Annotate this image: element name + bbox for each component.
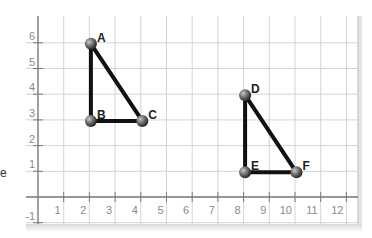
point-d bbox=[239, 89, 251, 101]
coordinate-plane: 123456789101112-1123456 ABCDEF e bbox=[0, 0, 372, 238]
point-label-b: B bbox=[97, 108, 106, 122]
x-tick-label: 1 bbox=[55, 204, 61, 216]
bottom-shadow bbox=[26, 224, 362, 232]
point-f bbox=[291, 166, 303, 178]
labeled-points: ABCDEF bbox=[85, 31, 310, 179]
x-tick-label: 8 bbox=[234, 204, 240, 216]
point-label-c: C bbox=[148, 108, 157, 122]
y-tick-label: 5 bbox=[29, 56, 35, 68]
point-a bbox=[85, 38, 97, 50]
x-tick-label: 3 bbox=[106, 204, 112, 216]
point-c bbox=[136, 115, 148, 127]
x-tick-label: 4 bbox=[132, 204, 138, 216]
x-tick-label: 5 bbox=[157, 204, 163, 216]
y-tick-label: 2 bbox=[29, 133, 35, 145]
x-tick-label: 11 bbox=[306, 204, 317, 216]
y-tick-label: 3 bbox=[29, 107, 35, 119]
graph-canvas: 123456789101112-1123456 ABCDEF bbox=[0, 0, 372, 238]
point-label-d: D bbox=[251, 82, 260, 96]
edge-text-fragment: e bbox=[0, 166, 7, 180]
point-label-a: A bbox=[97, 31, 106, 45]
x-tick-label: 12 bbox=[331, 204, 343, 216]
tick-labels: 123456789101112-1123456 bbox=[25, 30, 343, 222]
x-tick-label: 9 bbox=[260, 204, 266, 216]
point-b bbox=[85, 115, 97, 127]
frame-shadow bbox=[26, 16, 362, 232]
x-tick-label: 10 bbox=[280, 204, 292, 216]
triangle-segments bbox=[91, 44, 297, 173]
x-tick-label: 7 bbox=[209, 204, 215, 216]
y-tick-label: 6 bbox=[29, 30, 35, 42]
point-label-f: F bbox=[303, 159, 310, 173]
point-e bbox=[239, 166, 251, 178]
x-tick-label: 2 bbox=[80, 204, 86, 216]
x-tick-label: 6 bbox=[183, 204, 189, 216]
y-tick-label: 1 bbox=[29, 158, 35, 170]
y-tick-label: -1 bbox=[25, 210, 35, 222]
y-tick-label: 4 bbox=[29, 81, 35, 93]
point-label-e: E bbox=[251, 159, 259, 173]
